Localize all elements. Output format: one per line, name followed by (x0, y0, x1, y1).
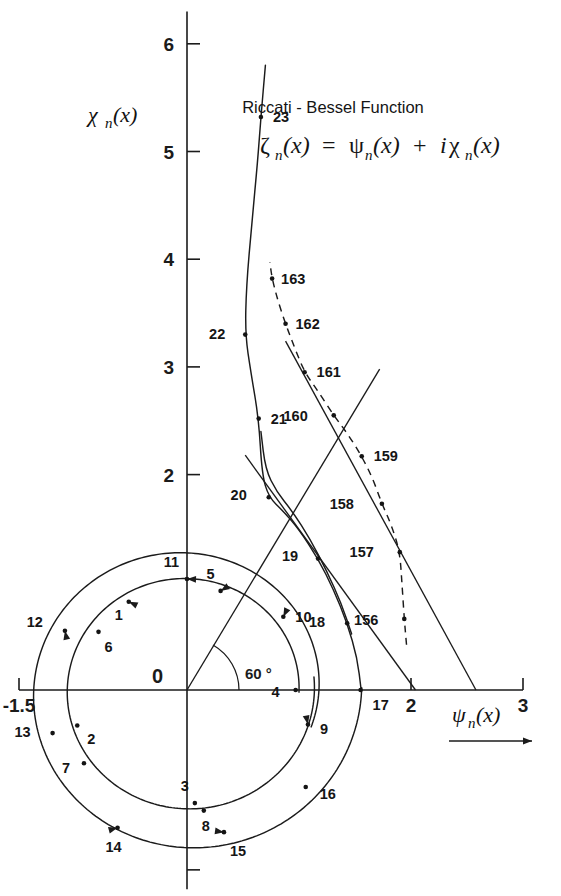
data-point-label: 2 (87, 731, 95, 747)
figure-formula: ζ n (x) = ψ n (x) + i χ n (x) (260, 132, 500, 163)
data-point-marker (331, 413, 336, 418)
data-point-marker (218, 589, 223, 594)
formula-chi-sub: n (465, 147, 473, 163)
y-axis-label-glyph: χ (86, 102, 99, 127)
data-point-label: 6 (105, 639, 113, 655)
data-point-label: 160 (284, 408, 308, 424)
data-point-label: 156 (354, 612, 378, 628)
asymptote-right-line (286, 341, 476, 690)
outer-locus-curve (34, 553, 362, 848)
data-point-marker (202, 808, 207, 813)
data-point-label: 162 (296, 316, 320, 332)
x-axis-tick-label: 3 (518, 695, 529, 716)
y-axis-tick-label: 4 (163, 249, 174, 270)
data-point-label: 158 (330, 496, 354, 512)
data-point-marker (359, 454, 364, 459)
ascending-locus-curve (246, 65, 361, 690)
riccati-bessel-figure: 23456-1.523 1234567891011121314151617181… (0, 0, 561, 896)
formula-zeta-arg: (x) (283, 132, 310, 158)
title-block: Riccati - Bessel Function ζ n (x) = ψ n … (242, 98, 499, 163)
data-point-label: 16 (320, 786, 336, 802)
data-point-label: 20 (231, 487, 247, 503)
data-point-marker (281, 614, 286, 619)
data-point-marker (193, 801, 198, 806)
formula-zeta: ζ (260, 132, 270, 158)
y-axis-tick-label: 2 (163, 465, 174, 486)
data-point-label: 11 (164, 554, 179, 570)
data-point-label: 7 (62, 760, 70, 776)
x-axis-tick-label: -1.5 (3, 695, 36, 716)
data-point-label: 22 (209, 326, 225, 342)
data-point-label: 18 (309, 614, 325, 630)
y-axis-label-subscript: n (105, 115, 113, 131)
data-point-marker (75, 723, 80, 728)
reference-lines-layer (187, 341, 476, 690)
formula-imaginary-unit: i (440, 132, 447, 158)
origin-label: 0 (152, 665, 163, 687)
y-axis-label-tail: (x) (113, 102, 137, 127)
formula-psi-sub: n (365, 147, 373, 163)
asymptote-left-line (245, 455, 415, 690)
data-point-marker (185, 577, 190, 582)
data-point-label: 9 (320, 721, 328, 737)
y-axis-tick-label: 3 (163, 357, 174, 378)
data-point-label: 12 (27, 614, 43, 630)
y-axis-tick-label: 5 (163, 142, 174, 163)
plot-canvas: 23456-1.523 1234567891011121314151617181… (0, 0, 561, 896)
data-point-marker (126, 599, 131, 604)
data-point-label: 3 (181, 778, 189, 794)
data-point-marker (398, 550, 403, 555)
data-point-marker (345, 621, 350, 626)
y-axis-tick-label: 6 (163, 34, 174, 55)
data-point-marker (302, 370, 307, 375)
data-point-marker (358, 688, 363, 693)
x-axis-tick-label: 2 (406, 695, 417, 716)
data-point-marker (380, 501, 385, 506)
data-point-label: 157 (350, 544, 374, 560)
data-point-marker (306, 722, 311, 727)
data-markers-layer: 1234567891011121314151617181920212223156… (14, 109, 406, 859)
data-point-marker (82, 761, 87, 766)
data-point-label: 1 (115, 607, 123, 623)
formula-psi-arg: (x) (373, 132, 400, 158)
formula-equals: = (322, 132, 336, 158)
formula-plus: + (413, 132, 427, 158)
x-axis-label-tail: (x) (476, 702, 500, 727)
x-axis-arrowhead-icon (523, 738, 532, 745)
x-axis-label-glyph: ψ (452, 702, 466, 727)
data-point-label: 13 (14, 724, 30, 740)
data-point-label: 15 (230, 843, 246, 859)
formula-chi-arg: (x) (473, 132, 500, 158)
data-point-marker (63, 628, 68, 633)
data-point-marker (256, 416, 261, 421)
data-point-marker (316, 556, 321, 561)
data-point-label: 163 (281, 271, 305, 287)
data-point-label: 14 (105, 839, 121, 855)
figure-title: Riccati - Bessel Function (242, 98, 424, 116)
angle-label: 60 ° (245, 665, 272, 682)
data-point-marker (96, 630, 101, 635)
data-point-label: 17 (373, 697, 389, 713)
data-point-marker (293, 688, 298, 693)
data-point-marker (270, 276, 275, 281)
data-point-label: 5 (207, 566, 215, 582)
formula-chi: χ (448, 132, 460, 158)
data-point-marker (303, 785, 308, 790)
angle-annotation: 60 ° (213, 645, 272, 690)
data-point-marker (222, 830, 227, 835)
data-point-marker (402, 617, 407, 622)
data-point-marker (243, 332, 248, 337)
angle-arc-path (213, 645, 239, 690)
formula-zeta-sub: n (275, 147, 283, 163)
data-point-marker (50, 731, 55, 736)
y-axis-label: χ n (x) (86, 102, 137, 131)
x-axis-label-subscript: n (468, 715, 476, 731)
data-point-label: 161 (317, 364, 341, 380)
ascending-locus-companion-curve (261, 432, 352, 634)
data-point-marker (283, 322, 288, 327)
data-point-marker (115, 826, 120, 831)
data-point-marker (266, 495, 271, 500)
formula-psi: ψ (349, 132, 364, 158)
data-point-label: 19 (282, 548, 298, 564)
data-point-label: 4 (272, 684, 280, 700)
